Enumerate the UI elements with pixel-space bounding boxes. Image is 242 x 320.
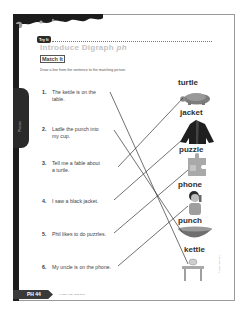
match-line-5-puzzle: [114, 170, 188, 233]
copyright-notice: © Evan-Moor Corp.: [218, 245, 222, 273]
match-line-4-jacket: [114, 140, 182, 200]
match-line-1-kettle: [110, 92, 188, 264]
page-number: PH 44: [27, 291, 41, 297]
match-line-3-turtle: [118, 98, 183, 167]
match-line-6-phone: [118, 206, 188, 266]
footer-note: LANGUAGE ARTS GRK: [59, 293, 85, 296]
matching-lines: [0, 0, 242, 320]
match-line-2-punch: [114, 130, 182, 232]
